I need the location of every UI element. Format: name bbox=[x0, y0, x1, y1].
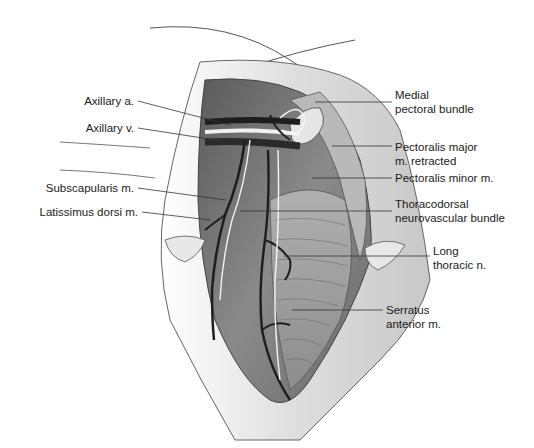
label-axillary-vein: Axillary v. bbox=[86, 121, 134, 135]
label-medial-pectoral-bundle: Medialpectoral bundle bbox=[395, 88, 474, 116]
label-long-thoracic: Longthoracic n. bbox=[433, 244, 486, 272]
axillary-artery-vessel bbox=[205, 120, 300, 122]
label-thoracodorsal: Thoracodorsalneurovascular bundle bbox=[395, 197, 505, 225]
label-serratus-anterior: Serratusanterior m. bbox=[386, 303, 441, 331]
label-pectoralis-minor: Pectoralis minor m. bbox=[395, 171, 493, 185]
anatomical-figure: Axillary a. Axillary v. Subscapularis m.… bbox=[0, 0, 534, 448]
label-subscapularis: Subscapularis m. bbox=[46, 181, 134, 195]
label-pectoralis-major: Pectoralis majorm. retracted bbox=[395, 140, 477, 168]
label-latissimus-dorsi: Latissimus dorsi m. bbox=[40, 205, 138, 219]
label-axillary-artery: Axillary a. bbox=[84, 94, 134, 108]
